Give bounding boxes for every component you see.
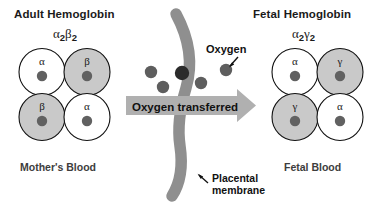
adult-heme-top-right <box>82 71 92 81</box>
fetal-blood-label: Fetal Blood <box>284 161 341 173</box>
fetal-label-gamma-top-right: γ <box>337 55 343 67</box>
placental-membrane-label-line2: membrane <box>212 184 265 196</box>
oxygen-leader-arrow <box>229 57 238 68</box>
fetal-label-alpha-bottom-right: α <box>337 100 343 112</box>
placental-membrane-label: Placental membrane <box>212 172 265 196</box>
placental-membrane-label-line1: Placental <box>212 172 265 184</box>
adult-label-alpha-top-left: α <box>39 55 45 67</box>
oxygen-molecule-2 <box>157 81 169 93</box>
oxygen-label: Oxygen <box>206 43 246 55</box>
fetal-label-alpha-top-left: α <box>292 55 298 67</box>
fetal-label-gamma-bottom-left: γ <box>292 100 298 112</box>
oxygen-transferred-label: Oxygen transferred <box>132 101 238 113</box>
fetal-heme-bottom-left <box>290 116 300 126</box>
adult-label-beta-top-right: β <box>84 55 90 67</box>
oxygen-molecule-3-in-membrane <box>175 66 189 80</box>
adult-heme-bottom-left <box>37 116 47 126</box>
mothers-blood-label: Mother's Blood <box>20 161 96 173</box>
hemoglobin-oxygen-transfer-diagram: Adult Hemoglobin α2β2 Fetal Hemoglobin α… <box>0 0 377 211</box>
fetal-heme-top-left <box>290 71 300 81</box>
oxygen-molecule-1 <box>145 66 157 78</box>
adult-hemoglobin-tetramer: α β β α <box>19 49 110 141</box>
oxygen-molecule-4 <box>195 77 207 89</box>
placental-membrane-leader-arrow <box>198 174 208 183</box>
adult-heme-top-left <box>37 71 47 81</box>
fetal-heme-top-right <box>335 71 345 81</box>
fetal-hemoglobin-tetramer: α γ γ α <box>272 49 363 141</box>
adult-heme-bottom-right <box>82 116 92 126</box>
adult-label-alpha-bottom-right: α <box>84 100 90 112</box>
adult-label-beta-bottom-left: β <box>39 100 45 112</box>
fetal-heme-bottom-right <box>335 116 345 126</box>
